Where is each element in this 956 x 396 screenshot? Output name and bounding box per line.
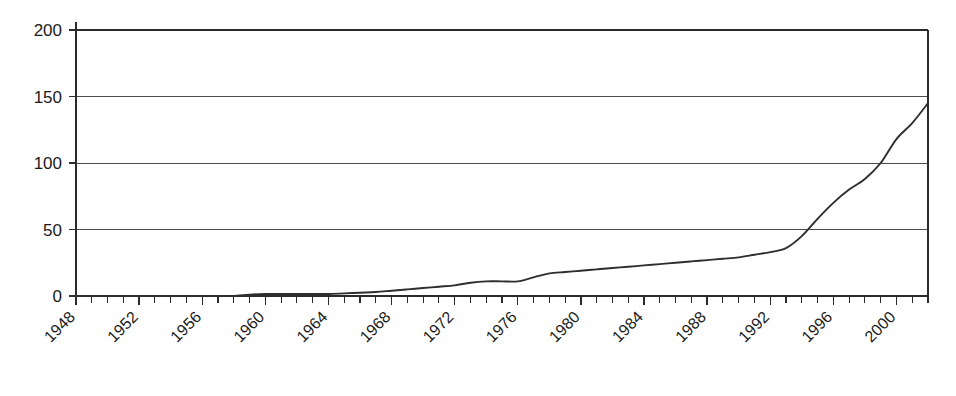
x-tick-label-1956: 1956	[167, 308, 204, 345]
y-tick-label-50: 50	[43, 221, 62, 240]
x-tick-label-1988: 1988	[672, 308, 709, 345]
x-tick-label-1996: 1996	[798, 308, 835, 345]
x-tick-label-2000: 2000	[861, 308, 898, 345]
y-tick-label-200: 200	[34, 21, 62, 40]
y-tick-label-150: 150	[34, 88, 62, 107]
x-tick-label-1968: 1968	[356, 308, 393, 345]
data-series-group	[76, 103, 928, 296]
line-chart: 050100150200 194819521956196019641968197…	[0, 0, 956, 396]
x-tick-label-1992: 1992	[735, 308, 772, 345]
x-axis-ticks	[76, 296, 928, 305]
y-tick-label-100: 100	[34, 154, 62, 173]
x-tick-label-1948: 1948	[41, 308, 78, 345]
x-tick-label-1980: 1980	[546, 308, 583, 345]
x-tick-label-1972: 1972	[420, 308, 457, 345]
x-tick-label-1952: 1952	[104, 308, 141, 345]
y-axis-tick-labels: 050100150200	[34, 21, 62, 306]
plot-frame	[69, 22, 928, 296]
x-tick-label-1960: 1960	[230, 308, 267, 345]
x-tick-label-1984: 1984	[609, 308, 646, 345]
x-tick-label-1976: 1976	[483, 308, 520, 345]
x-axis-tick-labels: 1948195219561960196419681972197619801984…	[41, 308, 899, 345]
y-tick-label-0: 0	[53, 287, 62, 306]
x-tick-label-1964: 1964	[293, 308, 330, 345]
chart-canvas: 050100150200 194819521956196019641968197…	[0, 0, 956, 396]
gridlines-group	[76, 30, 928, 230]
series-line-1	[76, 103, 928, 296]
